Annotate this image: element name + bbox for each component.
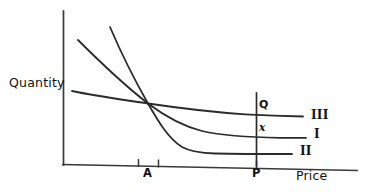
chart-canvas [0,0,373,194]
curve-label-iii: III [311,109,328,121]
annotation-q: Q [259,99,268,110]
x-tick-label-a: A [143,168,152,180]
curve-label-ii: II [300,145,312,157]
demand-curve-i [78,40,306,138]
curve-label-i: I [314,128,320,140]
annotation-x: x [259,122,265,133]
x-axis-label: Price [296,170,328,183]
y-axis-label: Quantity [9,77,65,90]
demand-curve-ii [110,27,292,154]
x-tick-label-p: P [252,168,261,180]
demand-curve-figure: Quantity Price A P Q x III I II [0,0,373,194]
